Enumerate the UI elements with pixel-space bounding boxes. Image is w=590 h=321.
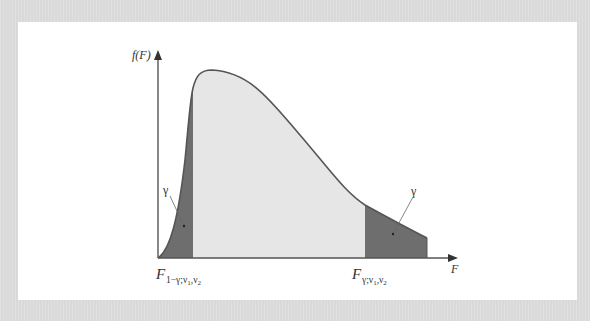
left-tail-region xyxy=(158,88,193,258)
y-axis-arrow-icon xyxy=(154,50,162,60)
left-tail-gamma-label: γ xyxy=(162,183,169,197)
right-tail-region xyxy=(365,205,427,258)
left-critical-subscript: 1−γ;ν xyxy=(166,275,188,285)
left-critical-value-label: F 1−γ;ν1,ν2 xyxy=(155,266,201,287)
y-axis-label: f(F) xyxy=(132,48,151,62)
left-gamma-dot xyxy=(183,225,185,227)
f-distribution-diagram: f(F) F γ γ F 1−γ;ν1,ν2 F γ;ν1,ν2 xyxy=(0,0,590,321)
svg-text:1−γ;ν1,ν2: 1−γ;ν1,ν2 xyxy=(166,275,201,287)
right-gamma-dot xyxy=(392,233,394,235)
left-critical-sub2: 2 xyxy=(197,279,201,287)
x-axis-label: F xyxy=(450,262,459,276)
right-critical-value-label: F γ;ν1,ν2 xyxy=(351,266,387,287)
right-critical-subscript: γ;ν xyxy=(361,275,374,285)
right-critical-base: F xyxy=(351,266,362,282)
left-critical-base: F xyxy=(155,266,166,282)
right-critical-sub2: 2 xyxy=(383,279,387,287)
right-tail-gamma-label: γ xyxy=(410,184,417,198)
x-axis-arrow-icon xyxy=(448,254,458,262)
central-region xyxy=(193,70,365,258)
svg-text:γ;ν1,ν2: γ;ν1,ν2 xyxy=(361,275,387,287)
